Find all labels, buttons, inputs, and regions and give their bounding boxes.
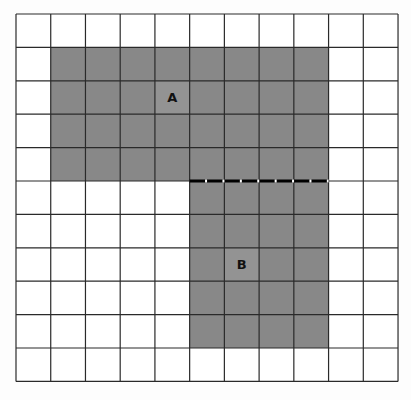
shape-b-label: B <box>237 257 247 272</box>
grid-diagram: AB <box>0 0 411 400</box>
shape-a-label: A <box>167 90 177 105</box>
